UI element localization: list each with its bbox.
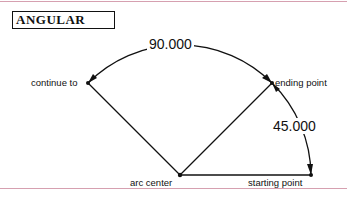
label-starting-point: starting point bbox=[248, 177, 302, 188]
angular-dimension-diagram bbox=[0, 0, 347, 201]
line-center-to-continue bbox=[88, 83, 180, 175]
arc-center-dot bbox=[178, 173, 182, 177]
label-ending-point: ending point bbox=[275, 77, 327, 88]
starting-point-dot bbox=[309, 173, 313, 177]
start-angle-value: 45.000 bbox=[271, 118, 318, 134]
line-center-to-ending bbox=[180, 83, 272, 175]
arc-angle-value: 90.000 bbox=[147, 36, 194, 52]
label-arc-center: arc center bbox=[130, 177, 172, 188]
label-continue-to: continue to bbox=[31, 77, 77, 88]
continue-point-dot bbox=[86, 81, 90, 85]
ending-point-dot bbox=[270, 81, 274, 85]
